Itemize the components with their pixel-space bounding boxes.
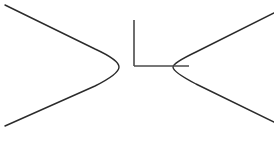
diagram-canvas	[0, 0, 274, 142]
diagram-svg	[0, 0, 274, 142]
left-hyperbola-branch	[5, 5, 119, 126]
right-hyperbola-branch	[173, 13, 274, 122]
